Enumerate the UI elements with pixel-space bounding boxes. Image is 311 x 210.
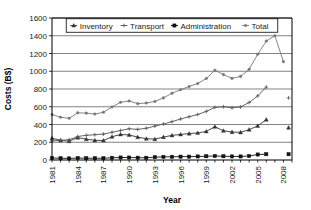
data-point-marker	[248, 154, 251, 157]
x-axis-title: Year	[163, 195, 182, 205]
legend-label: Transport	[130, 22, 165, 31]
data-point-marker	[256, 153, 259, 156]
data-point-marker	[265, 153, 268, 156]
data-point-marker	[119, 156, 122, 159]
data-point-marker	[188, 155, 191, 158]
x-tick-label: 1984	[74, 165, 83, 183]
legend-item-administration[interactable]: Administration	[171, 22, 231, 31]
data-point-marker	[239, 155, 242, 158]
data-point-marker	[154, 100, 157, 103]
y-tick-label: 1000	[29, 67, 47, 76]
data-point-marker	[94, 113, 97, 116]
data-point-marker	[145, 102, 148, 105]
y-tick-label: 200	[34, 138, 48, 147]
data-point-marker	[119, 101, 122, 104]
data-point-marker	[282, 60, 285, 63]
data-point-marker	[222, 73, 225, 76]
series-line-path	[52, 87, 266, 141]
x-tick-label: 2008	[279, 165, 288, 183]
series-line-path	[52, 120, 266, 142]
data-point-marker	[59, 116, 62, 119]
x-tick-label: 1990	[125, 165, 134, 183]
line-chart: 02004006008001000120014001600 1981198419…	[0, 0, 311, 210]
data-point-marker	[222, 155, 225, 158]
x-tick-label: 1999	[202, 165, 211, 183]
chart-container: 02004006008001000120014001600 1981198419…	[0, 0, 311, 210]
data-point-marker	[248, 68, 251, 71]
y-tick-label: 1200	[29, 50, 47, 59]
data-point-marker	[68, 117, 71, 120]
gridlines	[52, 18, 292, 142]
data-point-marker	[196, 82, 199, 85]
x-axis-tick-labels: 1981198419871990199319961999200220052008	[48, 165, 288, 183]
x-tick-label: 1987	[99, 165, 108, 183]
data-point-marker	[213, 154, 216, 157]
data-point-marker	[162, 155, 165, 158]
x-tick-label: 2002	[228, 165, 237, 183]
data-point-marker	[128, 156, 131, 159]
data-point-marker	[230, 155, 233, 158]
data-point-marker	[188, 85, 191, 88]
legend-label: Inventory	[80, 22, 113, 31]
data-point-marker	[214, 69, 217, 72]
data-point-marker	[239, 75, 242, 78]
y-tick-label: 1400	[29, 32, 47, 41]
series-line-path	[52, 154, 266, 158]
data-point-marker	[102, 157, 105, 160]
data-point-marker	[153, 156, 156, 159]
y-tick-label: 800	[34, 85, 48, 94]
series-administration	[50, 153, 290, 160]
y-tick-label: 0	[43, 156, 48, 165]
data-point-marker	[256, 53, 259, 56]
data-point-marker	[244, 24, 247, 27]
data-point-marker	[111, 106, 114, 109]
chart-legend: InventoryTransportAdministrationTotal	[66, 19, 278, 33]
data-point-marker	[274, 34, 277, 37]
x-tick-label: 2005	[254, 165, 263, 183]
x-tick-label: 1993	[151, 165, 160, 183]
data-point-marker	[85, 112, 88, 115]
data-point-marker	[162, 97, 165, 100]
y-tick-label: 600	[34, 103, 48, 112]
x-tick-label: 1996	[177, 165, 186, 183]
x-tick-label: 1981	[48, 165, 57, 183]
series-line-path	[52, 36, 283, 119]
data-point-marker	[145, 156, 148, 159]
data-point-marker	[128, 100, 131, 103]
data-point-marker	[170, 155, 173, 158]
y-tick-label: 1600	[29, 14, 47, 23]
data-point-marker	[93, 157, 96, 160]
data-point-marker	[264, 118, 268, 122]
data-point-marker	[287, 126, 291, 130]
legend-label: Total	[252, 22, 269, 31]
data-point-marker	[110, 156, 113, 159]
data-point-marker	[231, 77, 234, 80]
data-point-marker	[76, 156, 79, 159]
data-point-marker	[265, 40, 268, 43]
y-axis-tick-labels: 02004006008001000120014001600	[29, 14, 47, 165]
data-point-marker	[102, 111, 105, 114]
y-axis-title: Costs (B$)	[3, 68, 13, 111]
data-point-marker	[76, 111, 79, 114]
data-point-marker	[59, 157, 62, 160]
data-point-marker	[179, 155, 182, 158]
y-tick-label: 400	[34, 121, 48, 130]
data-point-marker	[85, 157, 88, 160]
legend-label: Administration	[180, 22, 231, 31]
data-point-marker	[205, 77, 208, 80]
data-point-marker	[213, 125, 217, 129]
data-point-marker	[179, 88, 182, 91]
data-point-marker	[171, 92, 174, 95]
data-point-marker	[205, 155, 208, 158]
data-point-marker	[136, 156, 139, 159]
data-point-marker	[173, 24, 176, 27]
data-point-marker	[287, 153, 290, 156]
data-point-marker	[196, 155, 199, 158]
data-point-marker	[136, 102, 139, 105]
